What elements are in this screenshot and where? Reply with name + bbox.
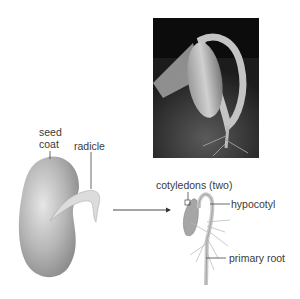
seed-coat-label-line2: coat xyxy=(39,138,59,150)
seedling-drawing xyxy=(183,194,230,285)
bean-seed xyxy=(19,157,79,278)
cotyledons-label: cotyledons (two) xyxy=(156,179,232,191)
primary-root-label: primary root xyxy=(229,252,285,264)
radicle-label: radicle xyxy=(74,140,105,152)
seed-coat-label-line1: seed xyxy=(39,126,62,138)
hypocotyl-label: hypocotyl xyxy=(231,198,275,210)
